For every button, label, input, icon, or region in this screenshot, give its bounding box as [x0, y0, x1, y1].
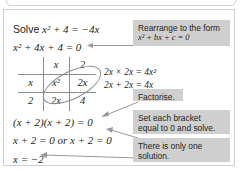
callout-factorise-line1: Factorise. [138, 92, 178, 102]
callout-set-bracket-line2: equal to 0 and solve. [138, 123, 225, 133]
clipped-panel-above [6, 0, 236, 6]
callout-factorise: Factorise. [133, 89, 183, 101]
equation-brackets: x + 2 = 0 or x + 2 = 0 [13, 134, 112, 146]
grid-row-header-1: x [18, 77, 43, 88]
callout-set-bracket: Set each bracket equal to 0 and solve. [133, 110, 230, 134]
equation-factorised: (x + 2)(x + 2) = 0 [13, 116, 93, 128]
callout-one-solution: There is only one solution. [133, 138, 230, 162]
callout-rearrange-line2: x² + bx + c = 0 [138, 33, 225, 43]
working-product: 2x × 2x = 4x² [104, 67, 156, 77]
equation-standard-form: x² + 4x + 4 = 0 [13, 41, 81, 53]
grid-row-header-2: 2 [18, 95, 43, 106]
box-method-grid: x 2 x 2 x² 2x 2x 4 [18, 57, 96, 111]
callout-one-solution-line2: solution. [138, 151, 225, 161]
solve-expression: x² + 4 = −4x [42, 23, 99, 35]
arrow-to-answer [40, 151, 138, 161]
callout-rearrange-line1: Rearrange to the form [138, 23, 225, 33]
equation-solve: Solve x² + 4 = −4x [13, 23, 99, 35]
callout-one-solution-line1: There is only one [138, 141, 225, 151]
solve-label: Solve [13, 23, 39, 35]
callout-rearrange: Rearrange to the form x² + bx + c = 0 [133, 20, 230, 46]
arrow-to-standard-form [87, 41, 139, 50]
grid-col-header-1: x [43, 59, 69, 70]
callout-set-bracket-line1: Set each bracket [138, 113, 225, 123]
worksheet-page: Solve x² + 4 = −4x x² + 4x + 4 = 0 x 2 x… [0, 0, 241, 172]
